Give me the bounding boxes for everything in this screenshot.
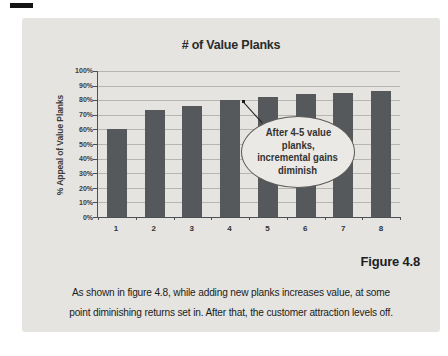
x-category-label: 2 bbox=[135, 224, 173, 233]
y-axis-title: % Appeal of Value Planks bbox=[55, 95, 65, 195]
y-tick-label: 20% bbox=[79, 185, 93, 193]
x-tick-mark bbox=[249, 217, 250, 220]
x-tick-mark bbox=[136, 217, 137, 220]
y-tick-label: 70% bbox=[79, 111, 93, 119]
scan-artifact-mark bbox=[10, 3, 33, 8]
bar-slot bbox=[136, 71, 174, 217]
x-category-label: 4 bbox=[211, 224, 249, 233]
y-tick-label: 10% bbox=[79, 199, 93, 207]
callout-text-line: After 4-5 value bbox=[265, 127, 330, 140]
callout-text-line: incremental gains bbox=[258, 152, 339, 165]
y-tick-label: 0% bbox=[83, 214, 93, 222]
figure-panel: # of Value Planks % Appeal of Value Plan… bbox=[22, 18, 440, 332]
plot-area: After 4-5 valueplanks,incremental gainsd… bbox=[97, 71, 400, 218]
x-axis-labels: 12345678 bbox=[97, 224, 400, 233]
y-tick-label: 30% bbox=[79, 170, 93, 178]
annotation-callout: After 4-5 valueplanks,incremental gainsd… bbox=[241, 116, 355, 188]
figure-caption: As shown in figure 4.8, while adding new… bbox=[22, 282, 440, 322]
x-category-label: 8 bbox=[362, 224, 400, 233]
chart-title: # of Value Planks bbox=[22, 38, 440, 52]
x-category-label: 3 bbox=[173, 224, 211, 233]
bar-slot bbox=[174, 71, 212, 217]
x-tick-mark bbox=[287, 217, 288, 220]
x-category-label: 7 bbox=[324, 224, 362, 233]
y-tick-label: 40% bbox=[79, 155, 93, 163]
y-axis-tick-labels: 100%90%80%70%60%50%40%30%20%10%0% bbox=[68, 71, 93, 218]
scanned-page: # of Value Planks % Appeal of Value Plan… bbox=[0, 0, 448, 356]
y-tick-label: 100% bbox=[75, 67, 93, 75]
x-tick-mark bbox=[362, 217, 363, 220]
bar bbox=[145, 110, 165, 217]
y-tick-label: 60% bbox=[79, 126, 93, 134]
x-tick-mark bbox=[98, 217, 99, 220]
callout-text-line: diminish bbox=[278, 165, 317, 178]
bar-slot bbox=[362, 71, 400, 217]
y-tick-label: 50% bbox=[79, 141, 93, 149]
bar bbox=[107, 129, 127, 217]
caption-line-2: point diminishing returns set in. After … bbox=[51, 302, 410, 322]
bar bbox=[371, 91, 391, 217]
x-tick-mark bbox=[400, 217, 401, 220]
x-tick-mark bbox=[325, 217, 326, 220]
callout-text-line: planks, bbox=[282, 140, 315, 153]
caption-line-1: As shown in figure 4.8, while adding new… bbox=[51, 282, 410, 302]
y-tick-label: 80% bbox=[79, 96, 93, 104]
bar-slot bbox=[98, 71, 136, 217]
x-category-label: 6 bbox=[286, 224, 324, 233]
bar bbox=[220, 100, 240, 217]
x-category-label: 5 bbox=[249, 224, 287, 233]
x-tick-mark bbox=[211, 217, 212, 220]
x-tick-mark bbox=[174, 217, 175, 220]
bar bbox=[182, 106, 202, 217]
x-category-label: 1 bbox=[97, 224, 135, 233]
y-tick-label: 90% bbox=[79, 82, 93, 90]
figure-number-label: Figure 4.8 bbox=[361, 254, 420, 269]
